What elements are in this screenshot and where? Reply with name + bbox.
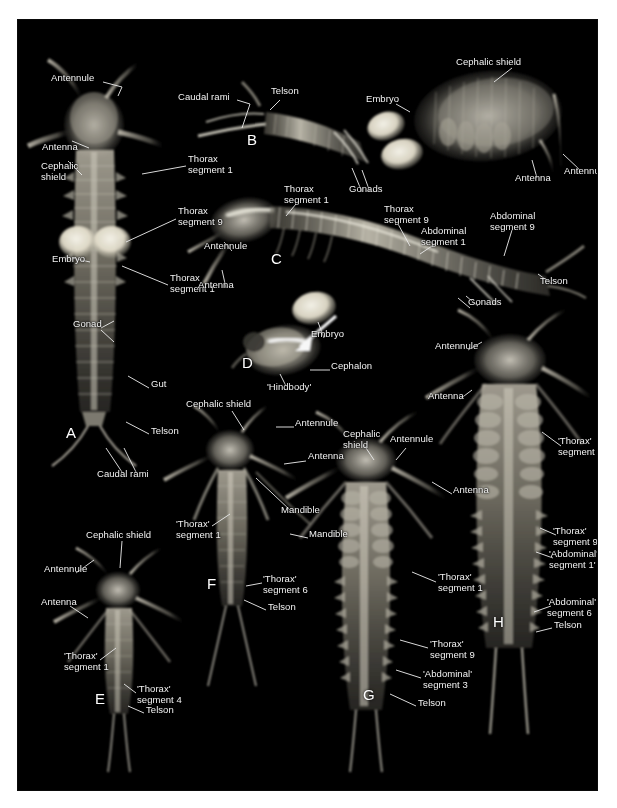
label-abdominal-segment-3-g: 'Abdominal' segment 3 bbox=[423, 669, 472, 690]
label-thorax-segment-9-h: 'Thorax' segment 9 bbox=[553, 526, 597, 547]
label-cephalon-d: Cephalon bbox=[331, 361, 372, 372]
figure-root: A B C D E F G H Antennule Antenna Cephal… bbox=[0, 0, 617, 808]
label-thorax-segment-1-g: 'Thorax' segment 1 bbox=[438, 572, 483, 593]
label-cephalic-shield-f: Cephalic shield bbox=[186, 399, 251, 410]
label-abdominal-segment-1-h: 'Abdominal' segment 1' bbox=[549, 549, 597, 570]
label-telson-c: Telson bbox=[540, 276, 568, 287]
label-gonads-b: Gonads bbox=[349, 184, 383, 195]
label-antennule-a: Antennule bbox=[51, 73, 94, 84]
specimen-artwork bbox=[18, 20, 597, 790]
label-gonads-c: Gonads bbox=[468, 297, 502, 308]
label-telson-f: Telson bbox=[268, 602, 296, 613]
label-thorax-segment-1-a: Thorax segment 1 bbox=[188, 154, 233, 175]
panel-letter-e: E bbox=[95, 690, 105, 707]
label-embryo-a: Embryo bbox=[52, 254, 85, 265]
label-mandible-f1: Mandible bbox=[281, 505, 320, 516]
label-antenna-b: Antenna bbox=[515, 173, 551, 184]
label-antenna-g: Antenna bbox=[453, 485, 489, 496]
label-hindbody-d: 'Hindbody' bbox=[267, 382, 311, 393]
panel-letter-b: B bbox=[247, 131, 257, 148]
label-embryo-b: Embryo bbox=[366, 94, 399, 105]
label-cephalic-shield-a: Cephalic shield bbox=[41, 161, 78, 182]
panel-letter-a: A bbox=[66, 424, 76, 441]
label-antenna-c: Antenna bbox=[198, 280, 234, 291]
label-thorax-segment-9-g: 'Thorax' segment 9 bbox=[430, 639, 475, 660]
label-antennule-g: Antennule bbox=[390, 434, 433, 445]
label-telson-g: Telson bbox=[418, 698, 446, 709]
label-thorax-segment-1-e: 'Thorax' segment 1 bbox=[64, 651, 109, 672]
label-embryo-c: Embryo bbox=[311, 329, 344, 340]
label-thorax-segment-1-f: 'Thorax' segment 1 bbox=[176, 519, 221, 540]
label-antenna-e: Antenna bbox=[41, 597, 77, 608]
label-thorax-segment-9-a: Thorax segment 9 bbox=[178, 206, 223, 227]
panel-letter-h: H bbox=[493, 613, 504, 630]
label-caudal-rami-a: Caudal rami bbox=[97, 469, 149, 480]
label-gut-a: Gut bbox=[151, 379, 166, 390]
label-thorax-segment-4-e: 'Thorax' segment 4 bbox=[137, 684, 182, 705]
label-abdominal-segment-6-h: 'Abdominal' segment 6 bbox=[547, 597, 596, 618]
label-abdominal-segment-9-c: Abdominal segment 9 bbox=[490, 211, 535, 232]
label-antennule-e: Antennule bbox=[44, 564, 87, 575]
label-thorax-segment-9-c: Thorax segment 9 bbox=[384, 204, 429, 225]
label-antennule-f: Antennule bbox=[295, 418, 338, 429]
label-telson-h: Telson bbox=[554, 620, 582, 631]
label-cephalic-shield-g: Cephalic shield bbox=[343, 429, 380, 450]
panel-letter-g: G bbox=[363, 686, 375, 703]
label-antenna-a: Antenna bbox=[42, 142, 78, 153]
label-thorax-segment-6-f: 'Thorax' segment 6 bbox=[263, 574, 308, 595]
label-mandible-f2: Mandible bbox=[309, 529, 348, 540]
label-telson-e: Telson bbox=[146, 705, 174, 716]
label-thorax-segment-1-c: Thorax segment 1 bbox=[284, 184, 329, 205]
label-thorax-segment-1-h: 'Thorax' segment 1 bbox=[558, 436, 597, 457]
label-antennule-h: Antennule bbox=[435, 341, 478, 352]
panel-letter-d: D bbox=[242, 354, 253, 371]
label-caudal-rami-b: Caudal rami bbox=[178, 92, 230, 103]
label-telson-b: Telson bbox=[271, 86, 299, 97]
label-antenna-f: Antenna bbox=[308, 451, 344, 462]
label-antennule-b: Antennule bbox=[564, 166, 597, 177]
micrograph-plate: A B C D E F G H Antennule Antenna Cephal… bbox=[18, 20, 597, 790]
label-cephalic-shield-e: Cephalic shield bbox=[86, 530, 151, 541]
label-antennule-c: Antennule bbox=[204, 241, 247, 252]
label-cephalic-shield-b: Cephalic shield bbox=[456, 57, 521, 68]
label-antenna-h: Antenna bbox=[428, 391, 464, 402]
label-abdominal-segment-1-c: Abdominal segment 1 bbox=[421, 226, 466, 247]
label-gonad-a: Gonad bbox=[73, 319, 102, 330]
label-telson-a: Telson bbox=[151, 426, 179, 437]
panel-letter-f: F bbox=[207, 575, 216, 592]
panel-letter-c: C bbox=[271, 250, 282, 267]
